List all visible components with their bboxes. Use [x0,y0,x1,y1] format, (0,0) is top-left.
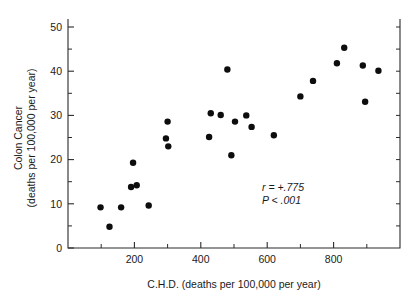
y-axis-tick-labels: 01020304050 [50,21,62,254]
data-point [297,93,303,99]
data-point [118,204,124,210]
data-point [232,118,238,124]
y-tick-label: 50 [50,21,62,33]
y-axis-title-line2: (deaths per 100,000 per year) [25,69,37,208]
data-point [362,99,368,105]
data-point [360,62,366,68]
x-tick-label: 400 [192,253,210,265]
data-point [218,112,224,118]
y-tick-label: 30 [50,109,62,121]
data-point [224,66,230,72]
data-point [164,118,170,124]
data-point [341,45,347,51]
y-tick-label: 40 [50,65,62,77]
data-point [206,134,212,140]
axes [68,19,400,248]
data-point [271,132,277,138]
data-point [375,68,381,74]
x-tick-label: 800 [325,253,343,265]
axis-ticks [68,27,400,248]
chart-canvas: 200400600800 01020304050 C.H.D. (deaths … [0,0,417,300]
y-tick-label: 10 [50,198,62,210]
correlation-annotation: r = +.775 [262,181,304,193]
x-axis-tick-labels: 200400600800 [126,253,343,265]
data-point [106,224,112,230]
data-point [248,124,254,130]
y-tick-label: 20 [50,153,62,165]
x-tick-label: 600 [258,253,276,265]
data-point [134,182,140,188]
data-point [334,60,340,66]
pvalue-annotation: P < .001 [262,194,301,206]
data-points [97,45,381,230]
x-tick-label: 200 [126,253,144,265]
data-point [228,152,234,158]
data-point [97,204,103,210]
data-point [130,159,136,165]
axis-frame [68,19,400,248]
x-axis-title: C.H.D. (deaths per 100,000 per year) [147,278,320,290]
data-point [208,110,214,116]
data-point [128,184,134,190]
y-tick-label: 0 [56,242,62,254]
data-point [243,112,249,118]
data-point [165,143,171,149]
data-point [310,78,316,84]
y-axis-title-line1: Colon Cancer [12,105,24,170]
scatter-plot-figure: 200400600800 01020304050 C.H.D. (deaths … [0,0,417,300]
data-point [145,202,151,208]
data-point [163,135,169,141]
